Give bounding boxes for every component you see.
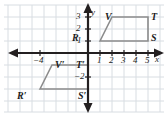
vertex-label-T: T (151, 12, 157, 22)
y-tick-3: 3 (76, 12, 81, 21)
x-tick-1: 1 (97, 56, 102, 65)
x-tick-3: 3 (121, 56, 126, 65)
x-tick-4: 4 (133, 56, 138, 65)
coordinate-plane-figure: x y −4 1 2 3 4 5 3 2 1 −2 R V T S R′ V′ … (0, 0, 166, 115)
vertex-label-S-prime: S′ (78, 91, 86, 101)
vertex-label-V-prime: V′ (55, 60, 64, 70)
x-axis-label: x (155, 55, 159, 64)
vertex-label-V: V (105, 12, 112, 22)
vertex-label-R-prime: R′ (17, 91, 26, 101)
x-axis-arrow-left (8, 49, 18, 58)
y-axis-label: y (91, 8, 95, 17)
x-tick-neg4: −4 (33, 56, 44, 65)
x-tick-5: 5 (145, 56, 150, 65)
y-tick-neg2: −2 (74, 72, 85, 81)
x-tick-2: 2 (109, 56, 114, 65)
vertex-label-S: S (151, 33, 157, 43)
vertex-label-T-prime: T′ (76, 60, 85, 70)
vertex-label-R: R (72, 33, 79, 43)
